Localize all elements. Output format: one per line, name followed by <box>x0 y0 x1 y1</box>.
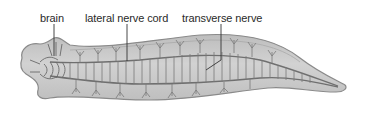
planarian-diagram: brain lateral nerve cord transverse nerv… <box>0 0 368 113</box>
label-brain: brain <box>40 12 64 24</box>
label-lateral-nerve-cord: lateral nerve cord <box>85 12 168 24</box>
label-transverse-nerve: transverse nerve <box>182 12 262 24</box>
planarian-body <box>21 34 346 100</box>
